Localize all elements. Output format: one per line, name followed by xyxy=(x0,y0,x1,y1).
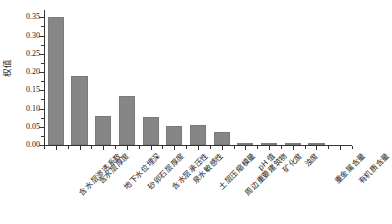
y-tick-label: 0.25 xyxy=(14,50,40,58)
y-tick-mark xyxy=(39,127,44,128)
x-category-label: 重金属含量 xyxy=(333,151,368,186)
x-boundary-tick-mark xyxy=(281,146,282,149)
x-boundary-tick-mark xyxy=(210,146,211,149)
y-tick-label: 0.05 xyxy=(14,123,40,131)
y-minor-tick-mark xyxy=(41,63,44,64)
x-category-label: 周边重要建筑物 xyxy=(243,151,289,197)
x-tick-mark xyxy=(151,146,152,150)
x-category-label: 含水层渗透系数 xyxy=(77,151,123,197)
y-minor-tick-mark xyxy=(41,136,44,137)
y-tick-label: 0.35 xyxy=(14,13,40,21)
y-tick-mark xyxy=(39,90,44,91)
x-boundary-tick-mark xyxy=(305,146,306,149)
y-axis-tick-labels: 0.000.050.100.150.200.250.300.35 xyxy=(12,0,40,224)
y-minor-tick-mark xyxy=(41,81,44,82)
x-boundary-tick-mark xyxy=(352,146,353,149)
bar xyxy=(190,125,206,145)
x-category-label: 有机质含量 xyxy=(357,151,392,186)
y-tick-label: 0.30 xyxy=(14,32,40,40)
x-boundary-tick-mark xyxy=(328,146,329,149)
y-tick-mark xyxy=(39,36,44,37)
y-tick-label: 0.20 xyxy=(14,68,40,76)
x-category-label: 地下水位埋深 xyxy=(122,151,162,191)
y-tick-label: 0.00 xyxy=(14,141,40,149)
bar xyxy=(71,76,87,145)
x-category-label: 含水层厚度 xyxy=(96,151,131,186)
bar xyxy=(285,143,301,145)
x-tick-mark xyxy=(293,146,294,150)
y-tick-mark xyxy=(39,17,44,18)
x-category-label: 砂卵石层厚度 xyxy=(146,151,186,191)
x-tick-mark xyxy=(198,146,199,150)
y-axis-label: 权值 xyxy=(0,48,12,88)
x-tick-mark xyxy=(340,146,341,150)
x-tick-mark xyxy=(245,146,246,150)
x-boundary-tick-mark xyxy=(186,146,187,149)
x-category-label: pH 值 xyxy=(257,151,278,172)
y-tick-mark xyxy=(39,72,44,73)
x-boundary-tick-mark xyxy=(68,146,69,149)
bar xyxy=(308,143,324,145)
x-tick-mark xyxy=(103,146,104,150)
x-tick-mark xyxy=(174,146,175,150)
y-tick-label: 0.15 xyxy=(14,86,40,94)
x-boundary-tick-mark xyxy=(257,146,258,149)
x-category-label: 泉水敏感性 xyxy=(191,151,226,186)
plot-area xyxy=(44,10,352,145)
x-boundary-tick-mark xyxy=(44,146,45,149)
bar xyxy=(143,117,159,145)
bar xyxy=(214,132,230,146)
x-tick-mark xyxy=(127,146,128,150)
x-tick-mark xyxy=(222,146,223,150)
x-tick-mark xyxy=(269,146,270,150)
bar xyxy=(48,17,64,145)
bar xyxy=(119,96,135,145)
y-tick-label: 0.10 xyxy=(14,105,40,113)
x-category-label: 浊度 xyxy=(302,151,320,169)
x-category-label: 含水层承压性 xyxy=(170,151,210,191)
bar xyxy=(95,116,111,145)
x-boundary-tick-mark xyxy=(234,146,235,149)
y-tick-mark xyxy=(39,54,44,55)
x-category-label: 矿化度 xyxy=(281,151,304,174)
bar xyxy=(237,143,253,145)
x-tick-mark xyxy=(80,146,81,150)
y-tick-mark xyxy=(39,109,44,110)
y-minor-tick-mark xyxy=(41,45,44,46)
x-category-label: 土层压缩模量 xyxy=(217,151,257,191)
x-boundary-tick-mark xyxy=(162,146,163,149)
x-boundary-tick-mark xyxy=(139,146,140,149)
x-boundary-tick-mark xyxy=(115,146,116,149)
y-minor-tick-mark xyxy=(41,26,44,27)
y-minor-tick-mark xyxy=(41,99,44,100)
y-minor-tick-mark xyxy=(41,118,44,119)
x-tick-mark xyxy=(56,146,57,150)
x-boundary-tick-mark xyxy=(91,146,92,149)
bar xyxy=(261,143,277,145)
x-tick-mark xyxy=(316,146,317,150)
bar xyxy=(166,126,182,145)
